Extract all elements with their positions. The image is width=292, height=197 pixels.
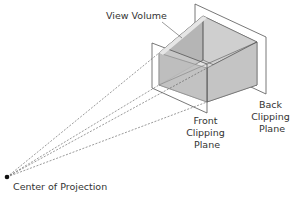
- front-label-line: Plane: [194, 139, 220, 150]
- back-label-line: Plane: [259, 123, 285, 134]
- projector-line: [7, 68, 207, 177]
- view-volume-leader: [162, 22, 182, 38]
- front-label-line: Front: [193, 115, 217, 126]
- view-volume-diagram: View Volume Front Clipping Plane Back Cl…: [0, 0, 292, 197]
- view-volume-label: View Volume: [106, 10, 167, 21]
- back-label-line: Back: [259, 99, 283, 110]
- center-of-projection-label: Center of Projection: [13, 181, 107, 192]
- front-label-line: Clipping: [186, 127, 225, 138]
- projector-line: [7, 53, 159, 177]
- projector-line: [7, 85, 159, 177]
- back-label-line: Clipping: [251, 111, 290, 122]
- back-clipping-plane-label: Back Clipping Plane: [251, 99, 292, 134]
- projector-line: [7, 102, 207, 177]
- center-of-projection-point: [5, 175, 10, 180]
- front-clipping-plane-label: Front Clipping Plane: [186, 115, 228, 150]
